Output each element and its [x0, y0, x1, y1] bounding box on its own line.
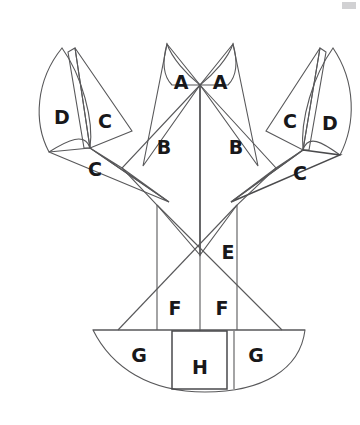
- piece-label-e-center: E: [222, 241, 235, 263]
- piece-label-c-left-lower: C: [88, 158, 102, 180]
- piece-label-d-left: D: [54, 106, 70, 128]
- piece-label-a-left: A: [174, 71, 189, 93]
- midsection-group: [118, 85, 282, 331]
- corner-artifact-mark: [342, 2, 356, 9]
- figure-canvas: A A B B C C C C D D E F F G G H: [0, 0, 360, 425]
- piece-label-h-center: H: [192, 356, 208, 378]
- piece-label-f-right: F: [216, 297, 229, 319]
- piece-c-right-lower-outline: [231, 150, 340, 202]
- piece-label-g-left: G: [131, 344, 147, 366]
- piece-label-c-left-upper: C: [98, 110, 112, 132]
- piece-c-right-sliver-outline: [303, 48, 326, 150]
- piece-label-f-left: F: [169, 297, 182, 319]
- piece-label-c-right-lower: C: [293, 162, 307, 184]
- piece-a-left-spike-outline: [143, 44, 200, 166]
- piece-b-right-outline: [200, 85, 276, 255]
- body-group: [122, 85, 276, 255]
- piece-label-d-right: D: [322, 112, 338, 134]
- piece-label-b-right: B: [229, 136, 243, 158]
- piece-label-a-right: A: [213, 71, 228, 93]
- piece-b-left-outline: [122, 85, 200, 255]
- piece-label-b-left: B: [157, 136, 171, 158]
- piece-c-left-upper-outline: [75, 48, 132, 148]
- piece-label-c-right-upper: C: [283, 110, 297, 132]
- piece-label-g-right: G: [248, 344, 264, 366]
- piece-c-left-lower-outline: [49, 148, 169, 202]
- lobster-dissection-diagram: A A B B C C C C D D E F F G G H: [0, 0, 360, 425]
